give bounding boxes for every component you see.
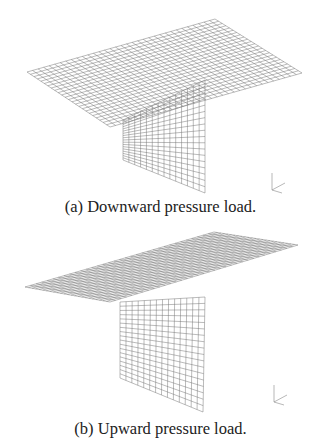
caption-b: (b) Upward pressure load. xyxy=(0,419,321,439)
web-mesh-1 xyxy=(120,297,205,412)
axes-triad-icon-0 xyxy=(272,173,285,193)
plate-mesh-0 xyxy=(27,19,302,127)
caption-a: (a) Downward pressure load. xyxy=(0,197,321,217)
axes-triad-icon-1 xyxy=(274,385,287,405)
plate-mesh-1 xyxy=(25,232,298,302)
finite-element-mesh-figures xyxy=(0,0,321,444)
